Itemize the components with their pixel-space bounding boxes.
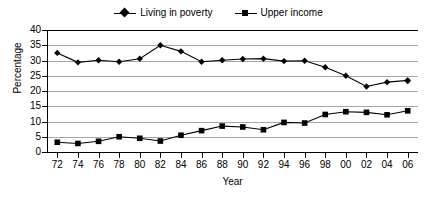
x-tick-label-98: 98 [315,160,335,170]
data-point-upper-income-80 [137,135,143,141]
x-tick-label-78: 78 [109,160,129,170]
data-point-living-in-poverty-94 [281,58,287,64]
x-tick-04 [387,153,388,158]
y-tick-label-25: 25 [3,71,41,81]
data-point-upper-income-88 [219,123,225,129]
legend-label-upper-income: Upper income [261,8,323,18]
data-point-upper-income-02 [364,110,370,116]
legend-square-marker-icon [235,8,257,18]
x-tick-02 [366,153,367,158]
legend-label-living-in-poverty: Living in poverty [140,8,212,18]
y-tick-label-30: 30 [3,56,41,66]
x-tick-label-88: 88 [212,160,232,170]
y-tick-15 [42,106,47,107]
data-point-living-in-poverty-80 [137,55,143,61]
x-tick-label-96: 96 [295,160,315,170]
x-tick-90 [243,153,244,158]
x-tick-label-92: 92 [253,160,273,170]
y-tick-label-5: 5 [3,132,41,142]
data-point-living-in-poverty-82 [157,42,163,48]
gridline-0 [47,152,418,153]
data-point-upper-income-92 [261,127,267,133]
y-tick-5 [42,137,47,138]
x-tick-76 [99,153,100,158]
legend-diamond-marker-icon [114,8,136,18]
data-point-living-in-poverty-92 [260,55,266,61]
x-tick-86 [202,153,203,158]
x-tick-82 [160,153,161,158]
data-point-upper-income-72 [55,139,61,145]
y-tick-25 [42,76,47,77]
x-tick-94 [284,153,285,158]
x-tick-06 [408,153,409,158]
x-tick-88 [222,153,223,158]
data-point-living-in-poverty-96 [301,58,307,64]
data-point-upper-income-76 [96,139,102,145]
y-tick-label-35: 35 [3,40,41,50]
data-point-upper-income-00 [343,109,349,115]
data-point-living-in-poverty-18 [404,78,410,84]
legend-item-upper-income: Upper income [235,8,323,18]
data-point-upper-income-98 [322,112,328,118]
y-tick-30 [42,61,47,62]
series-layer [47,30,418,152]
x-tick-84 [181,153,182,158]
data-point-upper-income-06 [405,108,411,114]
data-point-upper-income-94 [281,120,287,126]
chart-container: Living in poverty Upper income Percentag… [0,0,437,199]
x-tick-label-06: 06 [398,160,418,170]
data-point-living-in-poverty-02 [363,83,369,89]
x-tick-label-86: 86 [192,160,212,170]
data-point-living-in-poverty-78 [116,59,122,65]
series-line-living-in-poverty [57,45,407,86]
y-tick-0 [42,152,47,153]
data-point-upper-income-90 [240,124,246,130]
y-axis-labels: 0510152025303540 [0,0,41,199]
y-tick-label-40: 40 [3,25,41,35]
data-point-living-in-poverty-74 [75,59,81,65]
x-tick-96 [305,153,306,158]
data-point-upper-income-84 [178,132,184,138]
x-tick-92 [263,153,264,158]
y-tick-40 [42,30,47,31]
data-point-living-in-poverty-04 [384,79,390,85]
y-tick-20 [42,91,47,92]
y-tick-label-10: 10 [3,117,41,127]
y-tick-10 [42,122,47,123]
x-tick-00 [346,153,347,158]
data-point-living-in-poverty-98 [322,64,328,70]
y-tick-35 [42,45,47,46]
x-tick-74 [78,153,79,158]
legend-item-living-in-poverty: Living in poverty [114,8,212,18]
x-tick-label-84: 84 [171,160,191,170]
data-point-upper-income-86 [199,128,205,134]
x-tick-78 [119,153,120,158]
x-tick-label-72: 72 [47,160,67,170]
chart-legend: Living in poverty Upper income [0,5,437,21]
x-tick-label-82: 82 [150,160,170,170]
x-tick-label-02: 02 [356,160,376,170]
y-tick-label-0: 0 [3,147,41,157]
y-tick-label-15: 15 [3,101,41,111]
x-tick-80 [140,153,141,158]
data-point-living-in-poverty-76 [95,57,101,63]
x-tick-98 [325,153,326,158]
x-tick-label-76: 76 [89,160,109,170]
x-axis-title: Year [47,177,418,187]
data-point-living-in-poverty-90 [240,56,246,62]
x-tick-label-90: 90 [233,160,253,170]
data-point-living-in-poverty-84 [178,48,184,54]
data-point-upper-income-78 [116,134,122,140]
data-point-living-in-poverty-00 [343,73,349,79]
x-tick-label-00: 00 [336,160,356,170]
data-point-upper-income-04 [384,112,390,118]
series-line-upper-income [57,111,407,144]
data-point-upper-income-82 [158,138,164,144]
x-tick-label-80: 80 [130,160,150,170]
data-point-upper-income-74 [75,141,81,147]
y-tick-label-20: 20 [3,86,41,96]
x-tick-label-74: 74 [68,160,88,170]
data-point-upper-income-96 [302,120,308,126]
data-point-living-in-poverty-86 [198,59,204,65]
x-tick-72 [57,153,58,158]
